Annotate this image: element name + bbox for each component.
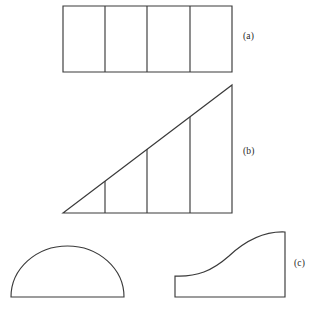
curved-region-outline [175,232,285,297]
panel-label-c: (c) [294,259,305,269]
panel-label-a: (a) [243,32,254,42]
panel-label-b: (b) [243,147,255,157]
figure-canvas: (a) (b) (c) [0,0,316,310]
panel-b-triangle [63,85,232,213]
panel-a-rectangle [63,6,232,72]
semicircle-outline [11,246,124,297]
figure-drawing [0,0,316,310]
panel-semicircle [11,246,124,297]
panel-c-curved-region [175,232,285,297]
